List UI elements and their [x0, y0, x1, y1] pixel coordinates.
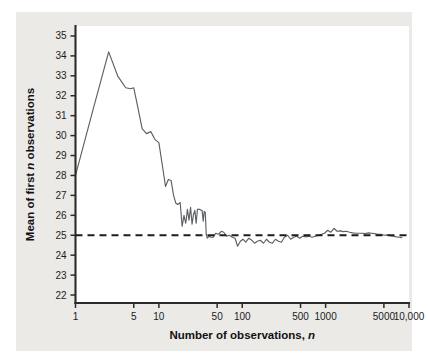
y-tick-label: 27 — [55, 190, 67, 201]
y-tick-label: 30 — [55, 130, 67, 141]
y-tick-label: 26 — [55, 210, 67, 221]
y-tick-label: 35 — [55, 30, 67, 41]
y-axis-title: Mean of first n observations — [24, 88, 36, 241]
y-tick-label: 32 — [55, 90, 67, 101]
line-chart: 2223242526272829303132333435 15105010050… — [0, 0, 428, 363]
y-tick-label: 31 — [55, 110, 67, 121]
x-axis-title: Number of observations, n — [169, 329, 315, 341]
x-axis-ticks: 1510501005001000500010,000 — [73, 303, 425, 322]
x-tick-label: 1000 — [315, 311, 338, 322]
figure-container: 2223242526272829303132333435 15105010050… — [0, 0, 428, 363]
x-tick-label: 10 — [153, 311, 165, 322]
y-axis-ticks: 2223242526272829303132333435 — [55, 30, 75, 300]
y-tick-label: 29 — [55, 150, 67, 161]
y-tick-label: 24 — [55, 250, 67, 261]
x-tick-label: 500 — [292, 311, 309, 322]
x-tick-label: 100 — [234, 311, 251, 322]
chart-plot-wrapper: 2223242526272829303132333435 15105010050… — [0, 0, 428, 363]
y-tick-label: 25 — [55, 230, 67, 241]
plot-area-background — [76, 26, 410, 303]
x-tick-label: 1 — [73, 311, 79, 322]
x-tick-label: 5000 — [373, 311, 396, 322]
y-tick-label: 28 — [55, 170, 67, 181]
x-tick-label: 5 — [131, 311, 137, 322]
x-tick-label: 50 — [212, 311, 224, 322]
x-tick-label: 10,000 — [394, 311, 425, 322]
y-tick-label: 22 — [55, 290, 67, 301]
y-tick-label: 33 — [55, 70, 67, 81]
y-tick-label: 23 — [55, 270, 67, 281]
y-tick-label: 34 — [55, 50, 67, 61]
